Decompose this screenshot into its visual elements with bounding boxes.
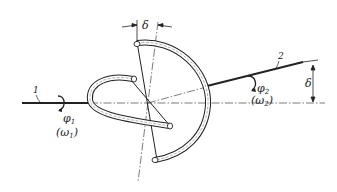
omega1-label: (ω1) — [56, 126, 78, 140]
shaft2-centerline — [148, 86, 210, 103]
shaft2-leader — [276, 61, 279, 68]
delta-top-label: δ — [142, 19, 149, 32]
phi1-label: φ1 — [63, 112, 75, 126]
yoke-2 — [134, 41, 208, 162]
shaft1-leader — [36, 95, 40, 102]
shaft2-number: 2 — [277, 51, 284, 61]
universal-joint-diagram: δ δ 1 2 φ1 (ω1) φ2 (ω2) — [0, 0, 337, 192]
rotation-arrow-2 — [248, 76, 255, 90]
rotation-arrow-1-head — [58, 108, 62, 112]
yoke-1 — [90, 76, 173, 129]
delta-right-label: δ — [305, 77, 312, 90]
omega2-label: (ω2) — [251, 94, 273, 108]
shaft1-number: 1 — [33, 85, 39, 95]
